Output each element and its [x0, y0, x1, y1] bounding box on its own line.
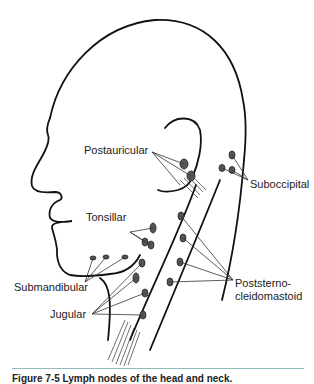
label-suboccipital: Suboccipital [250, 178, 309, 190]
label-tonsillar: Tonsillar [86, 211, 126, 223]
scm-back [150, 180, 220, 350]
figure-caption: Figure 7-5 Lymph nodes of the head and n… [12, 373, 232, 384]
label-submandibular: Submandibular [14, 281, 88, 293]
label-postauricular: Postauricular [84, 144, 148, 156]
head-outline [50, 20, 246, 160]
ear [158, 118, 201, 191]
face-profile [31, 118, 110, 276]
label-jugular: Jugular [50, 308, 86, 320]
caption-rule [12, 368, 304, 369]
label-poststerno-line1: Poststerno- [235, 277, 291, 289]
label-poststerno-line2: cleidomastoid [235, 290, 302, 302]
